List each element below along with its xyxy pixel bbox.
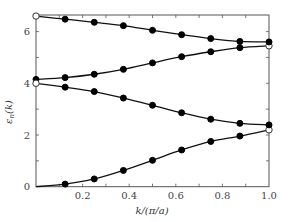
data-marker (237, 133, 243, 139)
data-marker (179, 54, 185, 60)
data-marker (208, 36, 214, 42)
data-marker (120, 167, 126, 173)
y-tick-label: 2 (24, 130, 30, 141)
data-marker (179, 110, 185, 116)
data-marker (91, 176, 97, 182)
data-marker (237, 38, 243, 44)
x-tick-label: 0.2 (75, 190, 91, 201)
data-marker (208, 116, 214, 122)
y-axis-label: εn(k) (3, 100, 16, 124)
data-marker (120, 23, 126, 29)
x-tick-label: 0.6 (168, 190, 184, 201)
data-marker (208, 49, 214, 55)
y-tick-label: 6 (24, 26, 30, 37)
data-marker (91, 19, 97, 25)
data-marker (150, 27, 156, 33)
data-marker (91, 71, 97, 77)
data-marker (150, 102, 156, 108)
data-marker (266, 122, 272, 128)
data-marker (150, 60, 156, 66)
data-marker (208, 138, 214, 144)
data-marker (150, 157, 156, 163)
band-structure-chart: 0.20.40.60.81.00246 k/(π/a) εn(k) (0, 0, 288, 222)
x-tick-label: 0.8 (214, 190, 230, 201)
data-marker (266, 39, 272, 45)
open-marker (33, 13, 39, 19)
data-marker (62, 75, 68, 81)
data-marker (120, 95, 126, 101)
x-axis-label: k/(π/a) (135, 205, 168, 216)
data-marker (237, 45, 243, 51)
x-tick-label: 1.0 (261, 190, 277, 201)
data-marker (62, 16, 68, 22)
data-series (33, 13, 272, 187)
data-marker (179, 32, 185, 38)
data-marker (91, 89, 97, 95)
data-marker (62, 181, 68, 187)
y-tick-label: 0 (24, 181, 30, 192)
data-marker (237, 120, 243, 126)
open-marker (33, 80, 39, 86)
x-tick-label: 0.4 (121, 190, 137, 201)
data-marker (62, 84, 68, 90)
data-marker (179, 147, 185, 153)
y-tick-label: 4 (24, 78, 30, 89)
data-marker (120, 66, 126, 72)
